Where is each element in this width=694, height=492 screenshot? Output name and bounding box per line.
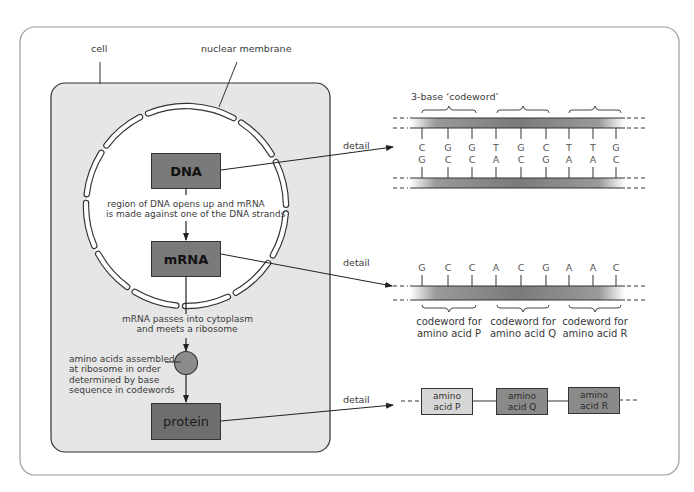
translation-note: amino acids assembled at ribosome in ord… [69, 354, 175, 395]
amino-acid-q: amino acid Q [496, 388, 548, 415]
cytoplasm-note: mRNA passes into cytoplasm and meets a r… [122, 314, 252, 335]
codeword-label: 3-base ‘codeword’ [411, 92, 498, 103]
diagram-graphics [0, 0, 694, 492]
diagram-canvas: cell nuclear membrane DNA region of DNA … [0, 0, 694, 492]
protein-detail-label: detail [343, 395, 370, 406]
dna-detail-label: detail [343, 141, 370, 152]
protein-box: protein [151, 403, 221, 440]
codeword-p-label: codeword for amino acid P [412, 316, 486, 339]
nuclear-membrane-label: nuclear membrane [201, 44, 291, 55]
transcription-note: region of DNA opens up and mRNA is made … [106, 199, 266, 220]
codeword-r-label: codeword for amino acid R [557, 316, 633, 339]
dna-box: DNA [151, 153, 221, 189]
ribosome [175, 352, 198, 375]
protein-label: protein [163, 414, 209, 429]
mrna-label: mRNA [164, 252, 209, 267]
cell-label: cell [91, 44, 107, 55]
amino-acid-r: amino acid R [568, 387, 620, 414]
dna-label: DNA [170, 164, 202, 179]
amino-acid-p: amino acid P [421, 388, 473, 415]
mrna-detail-label: detail [343, 258, 370, 269]
codeword-q-label: codeword for amino acid Q [485, 316, 561, 339]
mrna-box: mRNA [151, 241, 221, 277]
